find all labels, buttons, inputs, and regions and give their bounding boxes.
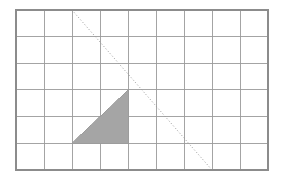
geometry-figure (0, 0, 286, 182)
figure-canvas (0, 0, 286, 182)
